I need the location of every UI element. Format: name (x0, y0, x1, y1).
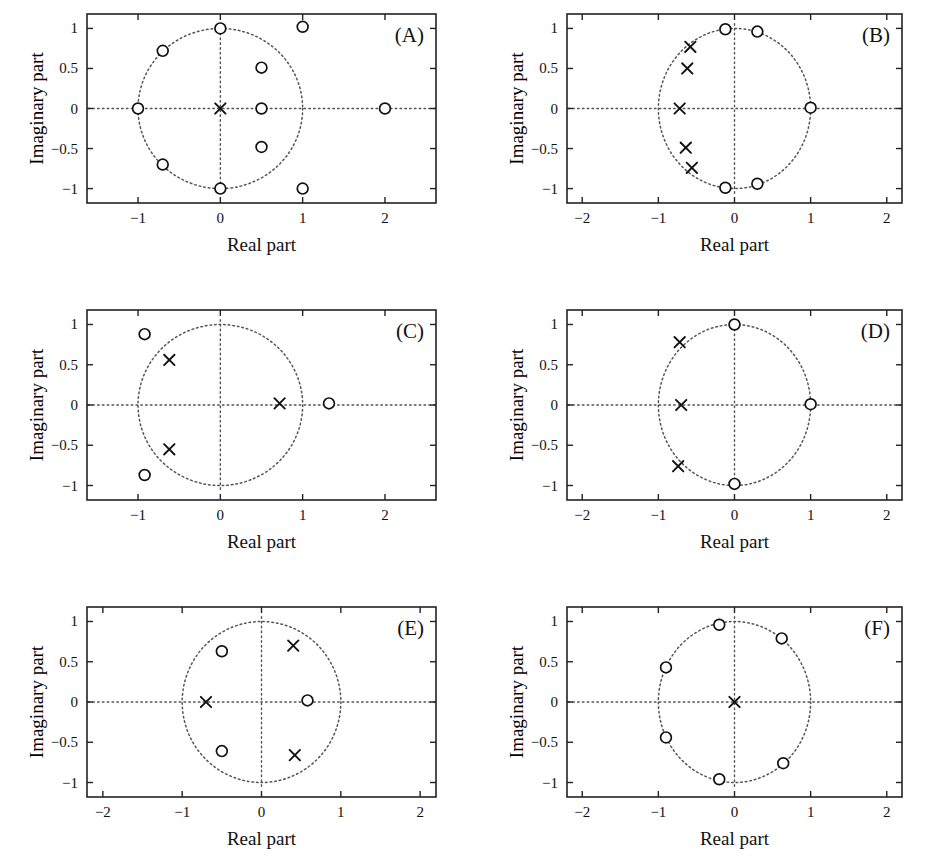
x-axis-title: Real part (227, 828, 297, 849)
zero-marker (776, 633, 787, 644)
zero-marker (729, 319, 740, 330)
y-axis-title: Imaginary part (506, 348, 527, 461)
y-tick-label: 0 (71, 101, 79, 117)
y-axis-title: Imaginary part (26, 52, 47, 165)
x-tick-label: −2 (95, 804, 111, 820)
zero-marker (324, 398, 335, 409)
x-tick-label: −2 (574, 210, 590, 226)
pole-marker (274, 398, 284, 408)
x-tick-label: −1 (650, 507, 666, 523)
zero-marker (729, 478, 740, 489)
y-tick-label: 0 (551, 397, 559, 413)
pole-zero-plot: −2−1012−1−0.500.51(F)Real partImaginary … (470, 575, 935, 863)
pole-marker (674, 337, 684, 347)
panel-D: −2−1012−1−0.500.51(D)Real partImaginary … (470, 270, 935, 575)
pole-zero-plot: −1012−1−0.500.51(A)Real partImaginary pa… (0, 0, 470, 270)
zero-marker (805, 102, 816, 113)
y-tick-label: 1 (71, 613, 79, 629)
y-tick-label: −1 (542, 478, 558, 494)
x-tick-label: 1 (299, 507, 307, 523)
panel-letter: (B) (862, 23, 890, 47)
x-tick-label: 1 (337, 804, 345, 820)
y-axis-title: Imaginary part (506, 52, 527, 165)
y-tick-label: −1 (542, 181, 558, 197)
pole-zero-plot: −2−1012−1−0.500.51(D)Real partImaginary … (470, 270, 935, 575)
x-tick-label: 0 (217, 507, 225, 523)
y-tick-label: 1 (551, 20, 559, 36)
y-tick-label: −0.5 (531, 437, 558, 453)
x-tick-label: −2 (574, 507, 590, 523)
panel-E: −2−1012−1−0.500.51(E)Real partImaginary … (0, 575, 470, 863)
x-tick-label: 1 (807, 210, 815, 226)
panel-letter: (F) (864, 616, 890, 640)
y-tick-label: 0.5 (539, 60, 558, 76)
zero-marker (139, 329, 150, 340)
x-tick-label: −1 (650, 210, 666, 226)
y-tick-label: −1 (542, 775, 558, 791)
zero-marker (302, 695, 313, 706)
y-axis-title: Imaginary part (506, 645, 527, 758)
zero-marker (778, 758, 789, 769)
y-tick-label: 0.5 (59, 357, 78, 373)
x-tick-label: −1 (130, 210, 146, 226)
y-tick-label: −1 (62, 181, 78, 197)
zero-marker (216, 646, 227, 657)
panel-letter: (A) (395, 23, 424, 47)
x-axis-title: Real part (700, 234, 770, 255)
x-tick-label: 1 (807, 804, 815, 820)
zero-marker (752, 178, 763, 189)
zero-marker (256, 62, 267, 73)
pole-marker (290, 750, 300, 760)
zero-marker (139, 470, 150, 481)
x-axis-title: Real part (227, 234, 297, 255)
zero-marker (297, 183, 308, 194)
y-tick-label: −0.5 (531, 141, 558, 157)
zero-marker (714, 774, 725, 785)
y-tick-label: 0 (71, 397, 79, 413)
x-tick-label: −1 (174, 804, 190, 820)
x-tick-label: 1 (299, 210, 307, 226)
panel-F: −2−1012−1−0.500.51(F)Real partImaginary … (470, 575, 935, 863)
panel-B: −2−1012−1−0.500.51(B)Real partImaginary … (470, 0, 935, 270)
zero-marker (297, 21, 308, 32)
y-tick-label: 0.5 (59, 654, 78, 670)
x-tick-label: −1 (650, 804, 666, 820)
pole-zero-plot: −2−1012−1−0.500.51(E)Real partImaginary … (0, 575, 470, 863)
panel-letter: (E) (397, 616, 424, 640)
pole-marker (288, 640, 298, 650)
y-tick-label: −0.5 (51, 141, 78, 157)
panel-C: −1012−1−0.500.51(C)Real partImaginary pa… (0, 270, 470, 575)
x-tick-label: −2 (574, 804, 590, 820)
y-tick-label: −1 (62, 775, 78, 791)
pole-marker (164, 444, 174, 454)
zero-marker (752, 26, 763, 37)
x-tick-label: 2 (381, 507, 389, 523)
y-axis-title: Imaginary part (26, 645, 47, 758)
pole-marker (681, 143, 691, 153)
y-tick-label: 1 (71, 316, 79, 332)
panel-letter: (C) (396, 319, 424, 343)
zero-marker (720, 24, 731, 35)
pole-marker (685, 42, 695, 52)
y-tick-label: 0 (551, 101, 559, 117)
panel-A: −1012−1−0.500.51(A)Real partImaginary pa… (0, 0, 470, 270)
zero-marker (380, 103, 391, 114)
figure-panel-grid: −1012−1−0.500.51(A)Real partImaginary pa… (0, 0, 935, 863)
x-tick-label: 2 (883, 507, 891, 523)
x-tick-label: 0 (731, 804, 739, 820)
pole-zero-plot: −2−1012−1−0.500.51(B)Real partImaginary … (470, 0, 935, 270)
zero-marker (216, 746, 227, 757)
x-tick-label: 2 (883, 804, 891, 820)
x-axis-title: Real part (700, 828, 770, 849)
y-axis-title: Imaginary part (26, 348, 47, 461)
x-tick-label: 2 (883, 210, 891, 226)
zero-marker (661, 732, 672, 743)
zero-marker (133, 103, 144, 114)
y-tick-label: 0.5 (539, 654, 558, 670)
y-tick-label: 0 (551, 694, 559, 710)
pole-marker (687, 163, 697, 173)
y-tick-label: −0.5 (531, 734, 558, 750)
x-tick-label: −1 (130, 507, 146, 523)
zero-marker (661, 662, 672, 673)
y-tick-label: −1 (62, 478, 78, 494)
